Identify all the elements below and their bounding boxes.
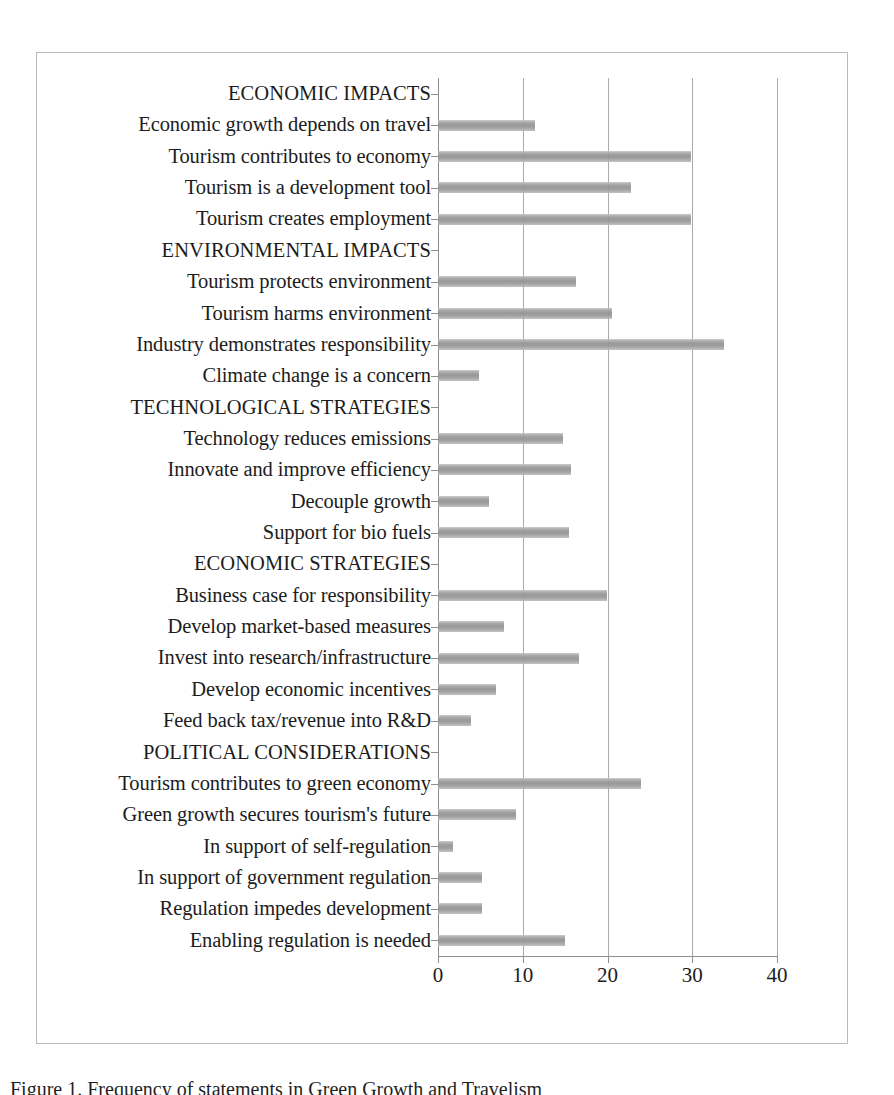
y-axis-tick	[431, 345, 438, 346]
bar	[438, 621, 504, 632]
category-label: Develop economic incentives	[51, 674, 431, 705]
bar	[438, 464, 571, 475]
y-axis-tick	[431, 156, 438, 157]
bar	[438, 872, 482, 883]
category-label: Tourism contributes to green economy	[51, 768, 431, 799]
category-label: Enabling regulation is needed	[51, 925, 431, 956]
category-label: In support of government regulation	[51, 862, 431, 893]
chart-row: ENVIRONMENTAL IMPACTS	[438, 235, 777, 266]
bar	[438, 370, 479, 381]
chart-row: Economic growth depends on travel	[438, 109, 777, 140]
y-axis-tick	[431, 376, 438, 377]
y-axis-tick	[431, 250, 438, 251]
bar-chart: ECONOMIC IMPACTSEconomic growth depends …	[37, 53, 847, 1043]
chart-row: In support of government regulation	[438, 862, 777, 893]
bar	[438, 778, 641, 789]
y-axis-tick	[431, 282, 438, 283]
chart-row: Green growth secures tourism's future	[438, 799, 777, 830]
y-axis-tick	[431, 595, 438, 596]
bar	[438, 433, 563, 444]
category-label: Support for bio fuels	[51, 517, 431, 548]
category-label: Economic growth depends on travel	[51, 109, 431, 140]
chart-row: Regulation impedes development	[438, 893, 777, 924]
category-label: Tourism is a development tool	[51, 172, 431, 203]
y-axis-tick	[431, 752, 438, 753]
chart-row: ECONOMIC IMPACTS	[438, 78, 777, 109]
bar	[438, 715, 471, 726]
category-label: Tourism contributes to economy	[51, 141, 431, 172]
y-axis-tick	[431, 721, 438, 722]
figure-frame: ECONOMIC IMPACTSEconomic growth depends …	[36, 52, 848, 1044]
group-header-label: ECONOMIC STRATEGIES	[51, 548, 431, 579]
category-label: Technology reduces emissions	[51, 423, 431, 454]
bar	[438, 214, 691, 225]
bar	[438, 841, 453, 852]
chart-row: Tourism contributes to economy	[438, 141, 777, 172]
bar	[438, 590, 607, 601]
category-label: Tourism creates employment	[51, 203, 431, 234]
bar	[438, 120, 535, 131]
plot-area: ECONOMIC IMPACTSEconomic growth depends …	[438, 78, 777, 956]
bar	[438, 903, 482, 914]
x-axis-tick-label: 30	[662, 963, 722, 988]
group-header-label: TECHNOLOGICAL STRATEGIES	[51, 392, 431, 423]
x-axis-tick-label: 10	[493, 963, 553, 988]
y-axis-tick	[431, 533, 438, 534]
chart-row: Tourism creates employment	[438, 203, 777, 234]
chart-row: Climate change is a concern	[438, 360, 777, 391]
x-axis-tick-mark	[438, 956, 439, 963]
bar	[438, 339, 724, 350]
x-axis-tick-label: 20	[578, 963, 638, 988]
chart-row: Tourism protects environment	[438, 266, 777, 297]
y-axis-tick	[431, 501, 438, 502]
bar	[438, 527, 569, 538]
category-label: Innovate and improve efficiency	[51, 454, 431, 485]
gridline-40	[777, 78, 778, 956]
group-header-label: POLITICAL CONSIDERATIONS	[51, 737, 431, 768]
chart-row: TECHNOLOGICAL STRATEGIES	[438, 392, 777, 423]
category-label: Develop market-based measures	[51, 611, 431, 642]
bar	[438, 935, 565, 946]
chart-row: Develop economic incentives	[438, 674, 777, 705]
bar	[438, 151, 691, 162]
chart-row: Invest into research/infrastructure	[438, 642, 777, 673]
chart-row: ECONOMIC STRATEGIES	[438, 548, 777, 579]
y-axis-tick	[431, 909, 438, 910]
y-axis-tick	[431, 439, 438, 440]
y-axis-tick	[431, 470, 438, 471]
y-axis-tick	[431, 407, 438, 408]
chart-row: Innovate and improve efficiency	[438, 454, 777, 485]
y-axis-tick	[431, 627, 438, 628]
y-axis-tick	[431, 815, 438, 816]
y-axis-tick	[431, 125, 438, 126]
chart-row: Technology reduces emissions	[438, 423, 777, 454]
chart-row: Enabling regulation is needed	[438, 925, 777, 956]
y-axis-tick	[431, 564, 438, 565]
category-label: Decouple growth	[51, 486, 431, 517]
chart-row: Tourism contributes to green economy	[438, 768, 777, 799]
bar	[438, 684, 496, 695]
chart-row: Support for bio fuels	[438, 517, 777, 548]
category-label: Regulation impedes development	[51, 893, 431, 924]
category-label: Business case for responsibility	[51, 580, 431, 611]
figure-caption: Figure 1. Frequency of statements in Gre…	[10, 1078, 884, 1095]
bar	[438, 496, 489, 507]
category-label: Industry demonstrates responsibility	[51, 329, 431, 360]
group-header-label: ECONOMIC IMPACTS	[51, 78, 431, 109]
x-axis-tick-mark	[523, 956, 524, 963]
chart-row: Business case for responsibility	[438, 580, 777, 611]
x-axis-tick-mark	[692, 956, 693, 963]
chart-row: In support of self-regulation	[438, 831, 777, 862]
group-header-label: ENVIRONMENTAL IMPACTS	[51, 235, 431, 266]
y-axis-tick	[431, 784, 438, 785]
y-axis-tick	[431, 219, 438, 220]
y-axis-tick	[431, 689, 438, 690]
category-label: Green growth secures tourism's future	[51, 799, 431, 830]
chart-row: POLITICAL CONSIDERATIONS	[438, 737, 777, 768]
category-label: Invest into research/infrastructure	[51, 642, 431, 673]
y-axis-tick	[431, 658, 438, 659]
chart-row: Industry demonstrates responsibility	[438, 329, 777, 360]
chart-row: Develop market-based measures	[438, 611, 777, 642]
x-axis-tick-mark	[777, 956, 778, 963]
category-label: Feed back tax/revenue into R&D	[51, 705, 431, 736]
